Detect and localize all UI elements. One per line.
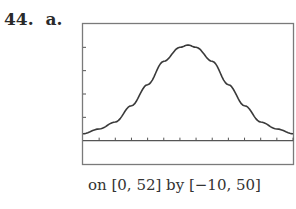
window-caption: on [0, 52] by [−10, 50]	[88, 176, 261, 194]
